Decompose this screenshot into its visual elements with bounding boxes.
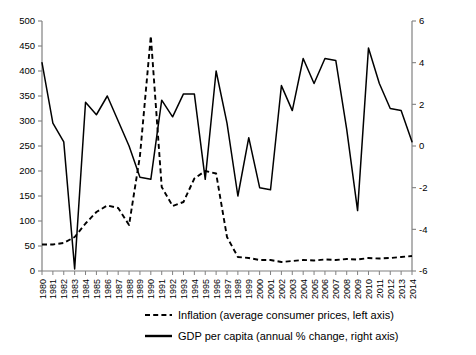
svg-text:1981: 1981 xyxy=(48,279,58,299)
svg-text:1990: 1990 xyxy=(146,279,156,299)
dual-axis-line-chart: 050100150200250300350400450500 -6-4-2024… xyxy=(0,0,476,355)
svg-text:2: 2 xyxy=(419,99,424,110)
svg-text:1991: 1991 xyxy=(157,279,167,299)
x-axis-tick-labels: 1980198119821983198419851986198719881989… xyxy=(38,279,418,299)
svg-text:0: 0 xyxy=(419,140,424,151)
svg-text:150: 150 xyxy=(19,190,35,201)
svg-text:1995: 1995 xyxy=(201,279,211,299)
svg-text:1997: 1997 xyxy=(223,279,233,299)
svg-text:250: 250 xyxy=(19,140,35,151)
svg-text:1987: 1987 xyxy=(114,279,124,299)
svg-text:1989: 1989 xyxy=(135,279,145,299)
svg-text:1985: 1985 xyxy=(92,279,102,299)
svg-text:2008: 2008 xyxy=(342,279,352,299)
chart-background xyxy=(0,0,476,355)
svg-text:100: 100 xyxy=(19,215,35,226)
chart-container: 050100150200250300350400450500 -6-4-2024… xyxy=(0,0,476,355)
svg-text:0: 0 xyxy=(30,265,35,276)
svg-text:1982: 1982 xyxy=(59,279,69,299)
svg-text:2011: 2011 xyxy=(375,279,385,298)
legend-label-gdp: GDP per capita (annual % change, right a… xyxy=(178,330,399,342)
svg-text:200: 200 xyxy=(19,165,35,176)
svg-text:1988: 1988 xyxy=(125,279,135,299)
svg-text:6: 6 xyxy=(419,15,424,26)
svg-text:400: 400 xyxy=(19,65,35,76)
svg-text:2006: 2006 xyxy=(320,279,330,299)
svg-text:1992: 1992 xyxy=(168,279,178,299)
svg-text:-6: -6 xyxy=(419,265,427,276)
svg-text:-4: -4 xyxy=(419,224,427,235)
svg-text:2010: 2010 xyxy=(364,279,374,299)
svg-text:1984: 1984 xyxy=(81,279,91,299)
svg-text:450: 450 xyxy=(19,40,35,51)
svg-text:1980: 1980 xyxy=(38,279,48,299)
legend-label-inflation: Inflation (average consumer prices, left… xyxy=(178,309,394,321)
svg-text:1998: 1998 xyxy=(233,279,243,299)
svg-text:1999: 1999 xyxy=(244,279,254,299)
svg-text:4: 4 xyxy=(419,57,424,68)
svg-text:2003: 2003 xyxy=(288,279,298,299)
svg-text:2007: 2007 xyxy=(331,279,341,299)
svg-text:2005: 2005 xyxy=(310,279,320,299)
svg-text:50: 50 xyxy=(24,240,35,251)
svg-text:300: 300 xyxy=(19,115,35,126)
svg-text:350: 350 xyxy=(19,90,35,101)
svg-text:1994: 1994 xyxy=(190,279,200,299)
svg-text:1986: 1986 xyxy=(103,279,113,299)
svg-text:2002: 2002 xyxy=(277,279,287,299)
svg-text:1996: 1996 xyxy=(212,279,222,299)
svg-text:2012: 2012 xyxy=(386,279,396,299)
svg-text:-2: -2 xyxy=(419,182,427,193)
svg-text:2001: 2001 xyxy=(266,279,276,299)
svg-text:2004: 2004 xyxy=(299,279,309,299)
svg-text:2013: 2013 xyxy=(397,279,407,299)
svg-text:2000: 2000 xyxy=(255,279,265,299)
svg-text:1993: 1993 xyxy=(179,279,189,299)
svg-text:2009: 2009 xyxy=(353,279,363,299)
svg-text:500: 500 xyxy=(19,15,35,26)
svg-text:1983: 1983 xyxy=(70,279,80,299)
svg-text:2014: 2014 xyxy=(408,279,418,299)
